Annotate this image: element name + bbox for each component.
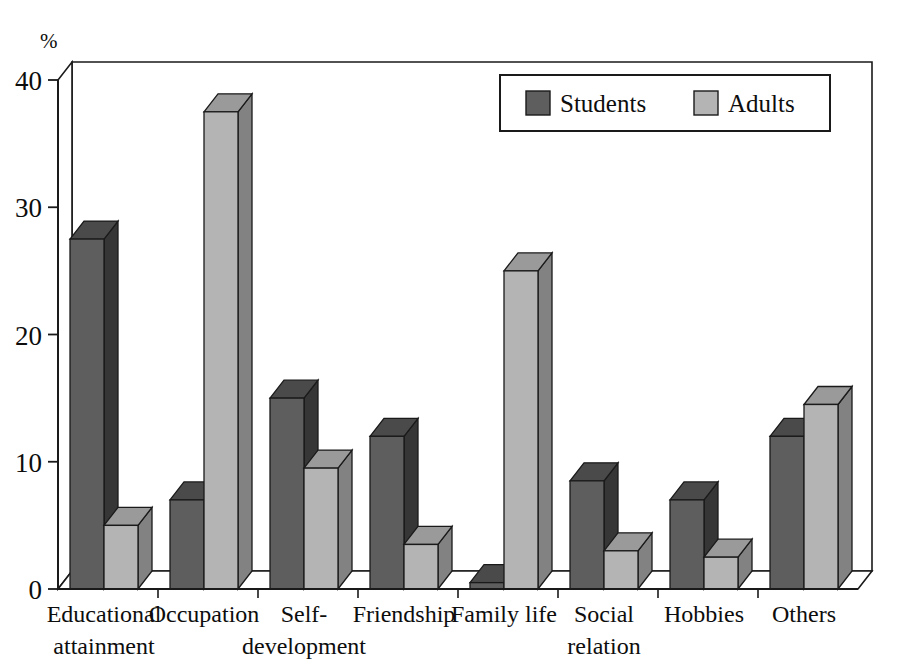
x-axis-labels: EducationalattainmentOccupationSelf-deve…: [47, 589, 836, 659]
x-axis-tick-label: Family life: [451, 601, 557, 627]
x-axis-tick-label: Friendship: [353, 601, 456, 627]
x-axis-tick-label: Occupation: [149, 601, 260, 627]
x-axis-tick-label: relation: [567, 633, 640, 659]
x-axis-tick-label: Educational: [47, 601, 162, 627]
bar: [304, 450, 352, 589]
chart-legend: StudentsAdults: [500, 75, 830, 131]
y-axis-unit-label: %: [40, 29, 58, 53]
x-axis-tick-label: attainment: [53, 633, 155, 659]
y-axis-tick-label: 30: [15, 193, 42, 223]
x-axis-tick-label: Others: [772, 601, 836, 627]
y-axis-tick-label: 10: [15, 448, 42, 478]
x-axis-tick-label: Social: [574, 601, 634, 627]
bar: [104, 507, 152, 589]
legend-swatch: [526, 91, 550, 115]
x-axis-tick-label: development: [242, 633, 366, 659]
y-axis-tick-label: 0: [29, 575, 43, 605]
x-axis-tick-label: Hobbies: [664, 601, 744, 627]
bar: [404, 526, 452, 589]
y-axis-tick-label: 40: [15, 66, 42, 96]
bar: [204, 94, 252, 589]
bar: [604, 533, 652, 589]
x-axis-tick-label: Self-: [281, 601, 328, 627]
bar-chart: % 010203040 EducationalattainmentOccupat…: [0, 0, 910, 668]
bar: [504, 253, 552, 589]
legend-label: Adults: [728, 90, 795, 117]
chart-canvas: % 010203040 EducationalattainmentOccupat…: [0, 0, 910, 668]
bar: [804, 386, 852, 589]
legend-label: Students: [560, 90, 646, 117]
y-axis-ticks: 010203040: [15, 66, 58, 605]
y-axis-tick-label: 20: [15, 321, 42, 351]
legend-swatch: [694, 91, 718, 115]
